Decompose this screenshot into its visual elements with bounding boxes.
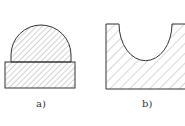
- u-cutout-block: [106, 24, 185, 89]
- figure-a: [5, 25, 75, 88]
- base-rectangle: [5, 62, 75, 88]
- figure-b-label: b): [142, 98, 152, 109]
- figure-a-label: a): [36, 98, 46, 109]
- dome-shape: [11, 25, 71, 62]
- figure-b: [106, 24, 185, 89]
- diagram-canvas: [0, 0, 185, 126]
